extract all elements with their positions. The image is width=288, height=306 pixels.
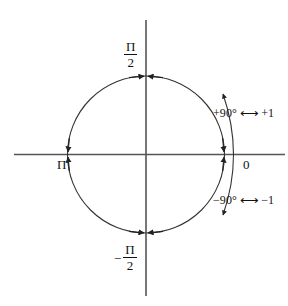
arrowhead-bottom-left bbox=[129, 231, 144, 232]
label-plus-one: +1 bbox=[261, 106, 274, 120]
arrowhead-right-upper bbox=[223, 138, 224, 152]
label-plus-90-mapping: +90° ⟷ +1 bbox=[213, 106, 274, 119]
double-arrow-icon: ⟷ bbox=[240, 193, 258, 208]
arrowhead-right-lower bbox=[223, 157, 224, 171]
minus-sign: − bbox=[114, 252, 123, 265]
arrowhead-top-right bbox=[148, 76, 163, 77]
fraction-numerator: Π bbox=[124, 40, 137, 55]
label-zero: 0 bbox=[243, 158, 250, 171]
label-pi-over-2: Π 2 bbox=[124, 40, 137, 69]
unit-circle-figure: Π 2 − Π 2 Π 0 +90° ⟷ +1 −90° ⟷ −1 bbox=[0, 0, 288, 306]
arrowhead-bottom-right bbox=[148, 231, 163, 232]
label-minus-90-degrees: −90° bbox=[213, 193, 237, 207]
double-arrow-icon: ⟷ bbox=[240, 106, 258, 121]
unit-circle-diagram bbox=[0, 0, 288, 306]
arrowhead-top-left bbox=[129, 76, 144, 77]
fraction-pi-over-2: Π 2 bbox=[124, 40, 137, 69]
label-plus-90-degrees: +90° bbox=[213, 106, 237, 120]
arrowhead-left-lower bbox=[68, 157, 69, 171]
label-minus-one: −1 bbox=[261, 193, 274, 207]
label-minus-pi-over-2: − Π 2 bbox=[114, 243, 137, 272]
fraction-numerator: Π bbox=[123, 243, 136, 258]
fraction-denominator: 2 bbox=[123, 258, 136, 272]
label-pi: Π bbox=[57, 158, 66, 171]
arrowhead-left-upper bbox=[68, 138, 69, 152]
label-minus-90-mapping: −90° ⟷ −1 bbox=[213, 193, 274, 206]
fraction-pi-over-2-negative: Π 2 bbox=[123, 243, 136, 272]
fraction-denominator: 2 bbox=[124, 55, 137, 69]
